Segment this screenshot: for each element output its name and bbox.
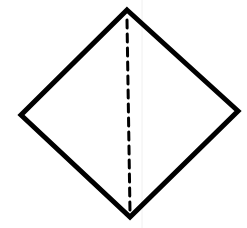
rhombus-diagram — [0, 0, 247, 228]
dashed-vertical-diagonal — [127, 20, 130, 212]
rhombus-outline — [21, 10, 238, 217]
diagram-canvas — [0, 0, 247, 228]
